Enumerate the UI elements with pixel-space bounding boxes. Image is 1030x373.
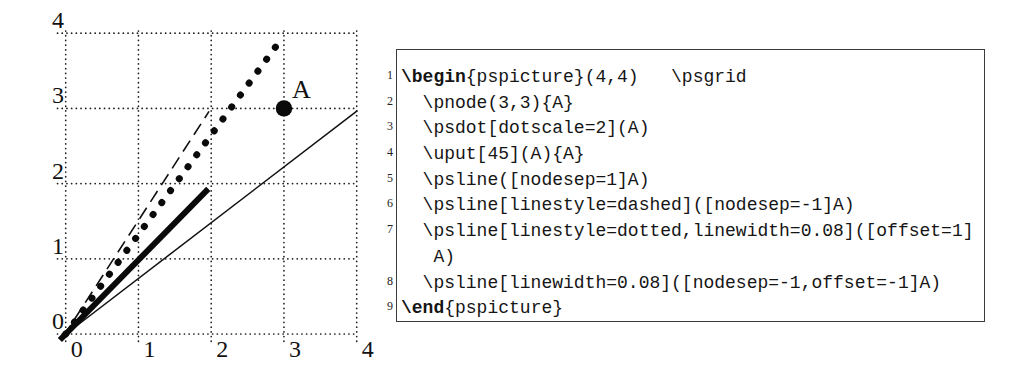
code-text: {pspicture}(4,4) \psgrid [466, 67, 747, 87]
line-number: 8 [376, 269, 393, 295]
code-text: \psline[linestyle=dashed]([nodesep=-1]A) [401, 195, 855, 215]
code-keyword: \end [401, 298, 444, 318]
line-number: 4 [376, 140, 393, 166]
line-dotted-thick [66, 37, 283, 334]
code-text: \pnode(3,3){A} [401, 93, 574, 113]
code-listing-box: 1\begin{pspicture}(4,4) \psgrid2 \pnode(… [396, 49, 985, 322]
line-number: 3 [376, 114, 393, 140]
code-row: A) [401, 245, 984, 271]
x-axis-tick-label: 3 [289, 336, 301, 362]
line-number: 9 [376, 294, 393, 320]
x-axis-tick-label: 4 [362, 336, 374, 362]
node-label: A [292, 75, 311, 104]
code-row: 1\begin{pspicture}(4,4) \psgrid [401, 65, 984, 91]
x-axis-tick-label: 0 [71, 336, 83, 362]
code-text: \psdot[dotscale=2](A) [401, 118, 649, 138]
node-dot [276, 100, 292, 116]
y-axis-tick-label: 3 [52, 82, 64, 108]
y-axis-tick-label: 2 [52, 158, 64, 184]
y-axis-tick-label: 0 [52, 308, 64, 334]
line-number: 5 [376, 166, 393, 192]
code-text: A) [401, 247, 455, 267]
x-axis-tick-label: 1 [143, 336, 155, 362]
line-solid-thick [60, 189, 208, 340]
code-text: \psline([nodesep=1]A) [401, 170, 649, 190]
pstricks-figure: A0123401234 [0, 0, 400, 373]
code-row: 9\end{pspicture} [401, 296, 984, 322]
line-number: 1 [376, 63, 393, 89]
code-row: 5 \psline([nodesep=1]A) [401, 168, 984, 194]
code-text: \psline[linewidth=0.08]([nodesep=-1,offs… [401, 273, 941, 293]
code-row: 4 \uput[45](A){A} [401, 142, 984, 168]
page: A0123401234 1\begin{pspicture}(4,4) \psg… [0, 0, 1030, 373]
code-row: 2 \pnode(3,3){A} [401, 91, 984, 117]
code-text: \psline[linestyle=dotted,linewidth=0.08]… [401, 221, 974, 241]
y-axis-tick-label: 1 [52, 233, 64, 259]
line-number: 6 [376, 191, 393, 217]
code-row: 3 \psdot[dotscale=2](A) [401, 116, 984, 142]
line-solid-thin [62, 111, 357, 337]
x-axis-tick-label: 2 [216, 336, 228, 362]
code-keyword: \begin [401, 67, 466, 87]
code-text: \uput[45](A){A} [401, 144, 585, 164]
code-row: 8 \psline[linewidth=0.08]([nodesep=-1,of… [401, 271, 984, 297]
line-number: 7 [376, 217, 393, 243]
code-text: {pspicture} [444, 298, 563, 318]
line-dashed [64, 111, 210, 336]
y-axis-tick-label: 4 [52, 7, 64, 33]
line-number: 2 [376, 89, 393, 115]
code-row: 7 \psline[linestyle=dotted,linewidth=0.0… [401, 219, 984, 245]
code-row: 6 \psline[linestyle=dashed]([nodesep=-1]… [401, 193, 984, 219]
